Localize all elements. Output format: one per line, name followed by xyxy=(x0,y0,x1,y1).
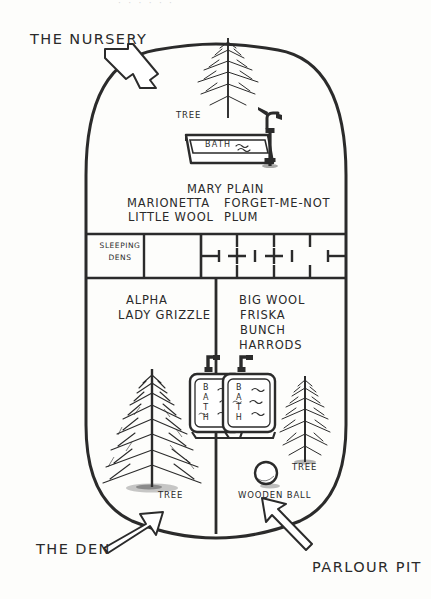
diagram-canvas: · · · · · · xyxy=(0,0,431,599)
nursery-bath-label: BATH xyxy=(205,140,231,150)
resident-plum: PLUM xyxy=(224,210,258,225)
resident-bunch: BUNCH xyxy=(240,323,286,338)
nursery-tree-icon xyxy=(198,38,258,118)
resident-forget-me-not: FORGET-ME-NOT xyxy=(224,196,330,211)
resident-mary-plain: MARY PLAIN xyxy=(187,182,264,197)
den-arrow-icon xyxy=(104,512,163,553)
resident-harrods: HARRODS xyxy=(239,338,302,353)
resident-little-wool: LITTLE WOOL xyxy=(128,210,214,225)
callout-the-den[interactable]: THE DEN xyxy=(36,540,111,559)
resident-alpha: ALPHA xyxy=(126,293,168,308)
parlour-bath-label: BATH xyxy=(233,383,243,423)
den-bath-label: BATH xyxy=(200,383,210,423)
callout-the-nursery[interactable]: THE NURSERY xyxy=(30,30,147,49)
den-tree-icon xyxy=(103,369,201,493)
sleeping-dens-label-line1: SLEEPING xyxy=(99,241,141,252)
resident-big-wool: BIG WOOL xyxy=(239,293,305,308)
parlour-arrow-icon xyxy=(262,498,312,550)
callout-parlour-pit[interactable]: PARLOUR PIT xyxy=(312,558,422,577)
resident-friska: FRISKA xyxy=(240,308,285,323)
sleeping-dens-label-line2: DENS xyxy=(99,253,141,264)
wooden-ball-label: WOODEN BALL xyxy=(238,490,311,501)
parlour-tree-label: TREE xyxy=(292,462,317,473)
enclosure-drawing xyxy=(0,0,431,599)
resident-marionetta: MARIONETTA xyxy=(127,196,210,211)
parlour-bath-icon xyxy=(223,355,275,438)
wooden-ball-icon xyxy=(255,462,280,489)
parlour-tree-icon xyxy=(280,376,330,464)
resident-lady-grizzle: LADY GRIZZLE xyxy=(118,308,211,323)
nursery-tree-label: TREE xyxy=(176,110,201,121)
den-tree-label: TREE xyxy=(158,490,183,501)
